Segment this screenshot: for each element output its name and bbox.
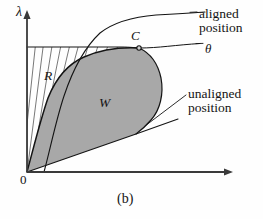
region-R-label: R bbox=[44, 69, 52, 83]
unaligned-position-annotation: unaligned position bbox=[188, 87, 241, 116]
point-C-label: C bbox=[131, 29, 140, 43]
aligned-position-annotation: aligned position bbox=[199, 7, 243, 36]
point-C-marker bbox=[137, 46, 141, 50]
x-axis-arrowhead bbox=[224, 168, 233, 175]
aligned-position-line2: position bbox=[199, 21, 243, 35]
figure-caption: (b) bbox=[117, 192, 133, 207]
unaligned-position-line2: position bbox=[188, 101, 241, 115]
unaligned-position-line1: unaligned bbox=[188, 87, 241, 101]
theta-label: θ bbox=[205, 42, 211, 56]
y-axis-label: λ bbox=[16, 5, 22, 20]
region-W-label: W bbox=[99, 96, 110, 110]
origin-label: 0 bbox=[20, 173, 27, 187]
aligned-position-line1: aligned bbox=[199, 7, 243, 21]
figure-container: λ C θ R W 0 aligned position unaligned p… bbox=[0, 0, 263, 219]
y-axis-arrowhead bbox=[23, 10, 30, 19]
theta-line bbox=[27, 44, 200, 49]
region-W-fill bbox=[27, 48, 162, 172]
